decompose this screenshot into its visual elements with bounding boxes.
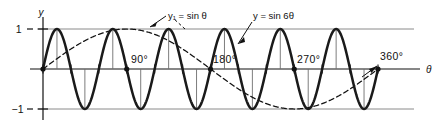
graph-canvas: y θ 1 −1 90° 180° 270° 360° y₁ = sin θ y… <box>0 0 442 125</box>
axis-node-180 <box>208 66 213 71</box>
axis-node-270 <box>292 66 297 71</box>
axis-node-90 <box>124 66 129 71</box>
x-tick-label-360: 360° <box>380 50 403 62</box>
curve-label-sin-6theta: y = sin 6θ <box>253 10 294 21</box>
y-tick-label-1: 1 <box>16 23 22 35</box>
x-tick-label-180: 180° <box>213 53 236 65</box>
x-tick-label-90: 90° <box>131 53 148 65</box>
y-axis-label: y <box>38 7 45 18</box>
axis-node-0 <box>40 66 45 71</box>
curve-label-sin-theta: y₁ = sin θ <box>168 10 207 21</box>
y-tick-label-minus-1: −1 <box>11 103 24 115</box>
x-axis-label: θ <box>426 64 432 75</box>
x-tick-label-270: 270° <box>297 53 320 65</box>
figure-sine-superposition: y θ 1 −1 90° 180° 270° 360° y₁ = sin θ y… <box>0 0 442 125</box>
leader-sin-6theta <box>238 22 252 44</box>
